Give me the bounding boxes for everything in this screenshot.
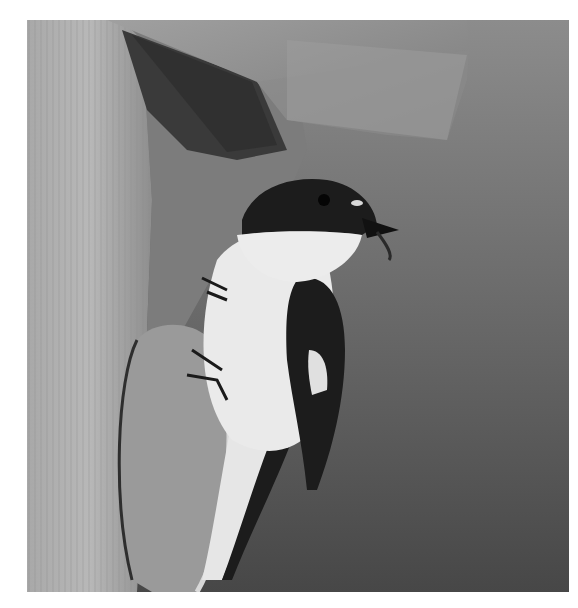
bird-photo-illustration [27, 20, 569, 592]
bird-eye [318, 194, 330, 206]
bird-photo [27, 20, 569, 592]
